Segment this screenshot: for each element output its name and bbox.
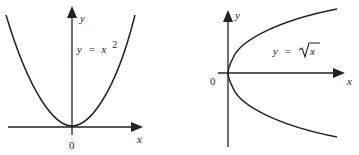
right-figure: y x 0 y = x: [210, 9, 352, 147]
right-y-axis-arrow-icon: [223, 10, 233, 22]
right-y-axis-label: y: [234, 9, 240, 21]
diagram-canvas: y x 0 y = x 2 y x 0 y = x: [0, 0, 359, 155]
left-equation-label: y = x 2: [76, 39, 117, 55]
right-x-axis-arrow-icon: [333, 68, 345, 78]
left-origin-label: 0: [69, 139, 75, 151]
left-y-axis-arrow-icon: [67, 6, 77, 18]
left-x-axis-label: x: [136, 133, 142, 145]
svg-text:y =: y =: [272, 45, 291, 57]
left-x-axis-arrow-icon: [131, 122, 143, 132]
left-parabola-curve: [6, 15, 135, 126]
right-x-axis-label: x: [346, 75, 352, 87]
left-y-axis-label: y: [79, 12, 85, 24]
svg-text:x: x: [309, 45, 315, 57]
left-figure: y x 0 y = x 2: [6, 6, 143, 151]
right-origin-label: 0: [210, 75, 216, 87]
right-equation-label: y = x: [272, 43, 320, 57]
